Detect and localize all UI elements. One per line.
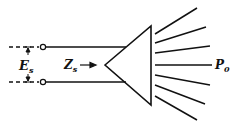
ray-6	[155, 85, 205, 104]
ray-3	[155, 46, 210, 53]
source-voltage-label: Es	[18, 58, 34, 75]
top-terminal	[40, 44, 45, 49]
bottom-terminal	[40, 79, 45, 84]
impedance-arrow	[80, 63, 96, 68]
ray-7	[155, 96, 197, 120]
ray-1	[155, 8, 197, 34]
radiation-rays	[155, 8, 212, 120]
horn-triangle	[105, 26, 151, 105]
terminal-circles	[40, 44, 45, 84]
source-impedance-label: Zs	[63, 58, 78, 74]
horn-antenna-diagram: Es Zs P0	[0, 0, 231, 127]
radiated-power-label: P0	[214, 58, 230, 74]
ray-5	[155, 75, 210, 85]
